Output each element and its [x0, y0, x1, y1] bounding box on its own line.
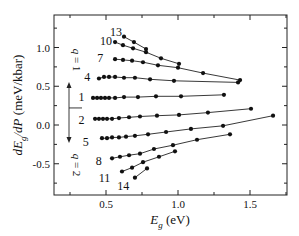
- x-tick-label: 1.5: [243, 198, 257, 210]
- data-point: [122, 76, 126, 80]
- series-labels: 12457810111314: [79, 25, 130, 193]
- series-label-5: 5: [83, 135, 89, 149]
- data-point: [177, 113, 181, 117]
- data-point: [138, 114, 142, 118]
- chart-svg: 0.51.01.5-0.50.00.51.0 12457810111314 q …: [0, 0, 299, 236]
- x-axis-label: Eg (eV): [149, 212, 190, 230]
- data-point: [148, 77, 152, 81]
- data-point: [93, 117, 97, 121]
- data-point: [105, 136, 109, 140]
- data-point: [99, 96, 103, 100]
- data-point: [127, 115, 131, 119]
- plot-frame: [54, 15, 287, 195]
- data-point: [120, 169, 124, 173]
- data-point: [110, 156, 114, 160]
- data-point: [97, 76, 101, 80]
- series-label-1: 1: [79, 90, 85, 104]
- series-label-8: 8: [96, 154, 102, 168]
- data-series: [91, 35, 275, 180]
- y-tick-label: 0.0: [36, 119, 50, 131]
- data-point: [113, 75, 117, 79]
- data-point: [91, 96, 95, 100]
- y-label-de: dE: [10, 141, 25, 156]
- data-point: [177, 62, 181, 66]
- y-tick-label: 0.5: [36, 80, 50, 92]
- data-point: [136, 95, 140, 99]
- data-point: [164, 130, 168, 134]
- data-point: [133, 76, 137, 80]
- data-point: [195, 138, 199, 142]
- series-14: [133, 166, 149, 180]
- data-point: [145, 166, 149, 170]
- data-point: [141, 160, 145, 164]
- data-point: [228, 132, 232, 136]
- data-point: [152, 147, 156, 151]
- data-point: [100, 136, 104, 140]
- arrow-up-head-icon: [67, 82, 72, 88]
- data-point: [117, 116, 121, 120]
- data-point: [155, 114, 159, 118]
- data-point: [157, 155, 161, 159]
- q2-label: q = 2: [71, 154, 83, 177]
- data-point: [127, 153, 131, 157]
- data-point: [141, 60, 145, 64]
- data-point: [97, 117, 101, 121]
- data-point: [105, 117, 109, 121]
- data-point: [122, 35, 126, 39]
- series-label-11: 11: [99, 171, 111, 185]
- data-point: [133, 134, 137, 138]
- series-line: [135, 168, 147, 177]
- data-point: [172, 79, 176, 83]
- series-11: [120, 149, 177, 173]
- series-1: [91, 93, 226, 100]
- data-point: [107, 75, 111, 79]
- data-point: [113, 57, 117, 61]
- data-point: [133, 176, 137, 180]
- y-axis-label: dEg/dP (meV/kbar): [10, 55, 28, 156]
- x-label-unit: (eV): [163, 212, 190, 227]
- data-point: [179, 94, 183, 98]
- data-point: [113, 96, 117, 100]
- series-line: [99, 77, 238, 82]
- x-tick-label: 1.0: [171, 198, 185, 210]
- data-point: [138, 152, 142, 156]
- arrow-down-head-icon: [67, 137, 72, 143]
- data-point: [121, 58, 125, 62]
- data-point: [159, 56, 163, 60]
- series-7: [113, 57, 242, 82]
- q-value: = 2: [71, 159, 83, 176]
- data-point: [110, 135, 114, 139]
- x-tick-label: 0.5: [99, 198, 113, 210]
- data-point: [171, 143, 175, 147]
- data-point: [146, 132, 150, 136]
- data-point: [206, 111, 210, 115]
- data-point: [118, 155, 122, 159]
- y-label-dp: /dP: [10, 118, 25, 137]
- chart-container: 0.51.01.5-0.50.00.51.0 12457810111314 q …: [0, 0, 299, 236]
- y-tick-label: 1.0: [36, 42, 50, 54]
- data-point: [222, 93, 226, 97]
- data-point: [132, 40, 136, 44]
- q1-label: q = 1: [71, 49, 83, 72]
- data-point: [221, 124, 225, 128]
- data-point: [117, 135, 121, 139]
- series-label-7: 7: [97, 51, 103, 65]
- axis-ticks: 0.51.01.5-0.50.00.51.0: [33, 15, 287, 210]
- data-point: [101, 117, 105, 121]
- data-point: [95, 96, 99, 100]
- x-label-symbol: E: [149, 212, 158, 227]
- y-label-unit: (meV/kbar): [10, 55, 25, 119]
- data-point: [121, 43, 125, 47]
- data-point: [102, 75, 106, 79]
- data-point: [156, 63, 160, 67]
- q-value: = 1: [71, 54, 83, 71]
- data-point: [271, 114, 275, 118]
- data-point: [249, 107, 253, 111]
- data-point: [144, 50, 148, 54]
- data-point: [236, 80, 240, 84]
- y-tick-label: -0.5: [33, 158, 51, 170]
- data-point: [103, 96, 107, 100]
- plot-border: [54, 15, 287, 195]
- series-label-2: 2: [79, 113, 85, 127]
- series-label-14: 14: [117, 179, 129, 193]
